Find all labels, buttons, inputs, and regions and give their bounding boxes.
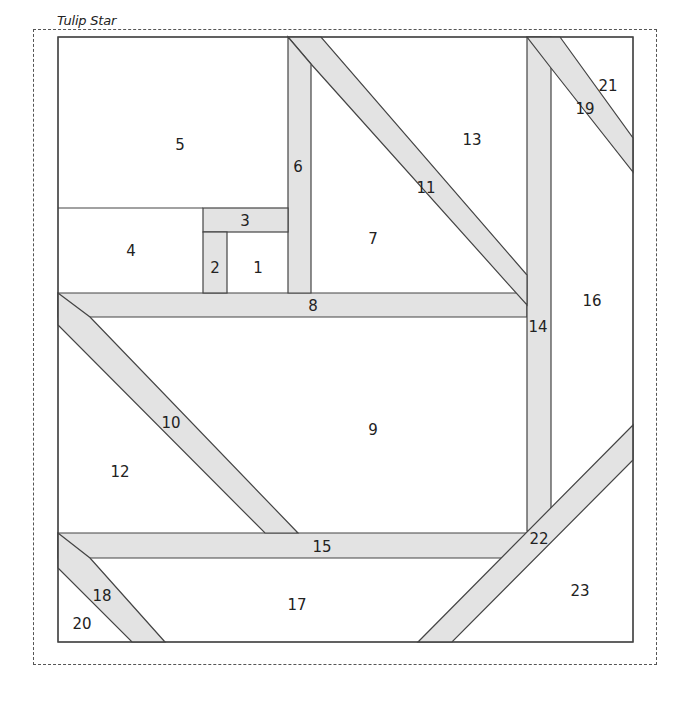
piece-label-11: 11 [416, 179, 435, 197]
piece-label-23: 23 [570, 582, 589, 600]
piece-label-15: 15 [312, 538, 331, 556]
piece-8-strip [58, 293, 527, 317]
piece-label-21: 21 [598, 77, 617, 95]
piece-label-12: 12 [110, 463, 129, 481]
piece-label-6: 6 [293, 158, 303, 176]
piece-label-8: 8 [308, 297, 318, 315]
piece-label-1: 1 [253, 259, 263, 277]
piece-label-14: 14 [528, 318, 547, 336]
piece-label-7: 7 [368, 230, 378, 248]
piece-14-strip [527, 37, 551, 531]
piece-label-3: 3 [240, 212, 250, 230]
piece-label-9: 9 [368, 421, 378, 439]
piece-label-18: 18 [92, 587, 111, 605]
piece-label-16: 16 [582, 292, 601, 310]
quilt-block-diagram: 1234567891011121314151617181920212223 [0, 0, 689, 703]
piece-label-22: 22 [529, 530, 548, 548]
piece-label-20: 20 [72, 615, 91, 633]
piece-label-10: 10 [161, 414, 180, 432]
piece-label-2: 2 [210, 259, 220, 277]
piece-label-13: 13 [462, 131, 481, 149]
piece-label-17: 17 [287, 596, 306, 614]
piece-label-19: 19 [575, 100, 594, 118]
piece-label-5: 5 [175, 136, 185, 154]
piece-15-strip [58, 533, 527, 558]
piece-label-4: 4 [126, 242, 136, 260]
